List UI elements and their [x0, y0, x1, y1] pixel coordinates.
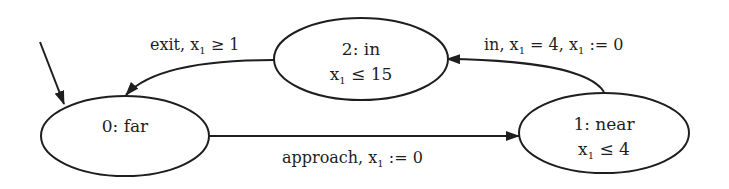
state-near-invariant: x1 ≤ 4 [578, 139, 630, 161]
state-in-title: 2: in [342, 39, 380, 59]
initial-state-arrow [40, 42, 64, 104]
edge-exit [126, 60, 274, 95]
state-node-near: 1: near x1 ≤ 4 [519, 93, 689, 173]
edge-in-label: in, x1 = 4, x1 := 0 [484, 35, 623, 56]
edge-exit-label: exit, x1 ≥ 1 [150, 35, 239, 56]
state-near-title: 1: near [573, 114, 635, 134]
state-in-invariant: x1 ≤ 15 [330, 64, 393, 86]
edge-in [447, 59, 604, 92]
edge-approach-label: approach, x1 := 0 [282, 148, 423, 169]
timed-automaton-diagram: exit, x1 ≥ 1 approach, x1 := 0 in, x1 = … [0, 0, 729, 189]
state-far-title: 0: far [102, 116, 149, 136]
state-node-far: 0: far [41, 96, 209, 176]
state-node-in: 2: in x1 ≤ 15 [274, 18, 448, 100]
